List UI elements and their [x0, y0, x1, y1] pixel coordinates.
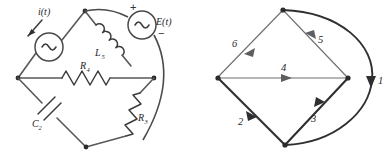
current-direction-arrow-icon — [28, 20, 42, 36]
wire-left-to-C2 — [18, 78, 42, 103]
graph-node-top — [280, 7, 285, 12]
circuit-diagram: L 5 + − E(t) R 4 — [16, 1, 173, 149]
graph-node-left — [215, 75, 220, 80]
graph-edge-4: 4 — [218, 62, 348, 82]
graph-edge-3: 3 — [285, 78, 348, 145]
graph-edge-6-label: 6 — [232, 38, 238, 49]
wire-source-to-top — [62, 11, 85, 40]
inductor-label-subscript: 5 — [102, 53, 106, 60]
wire-arc-top-to-voltage-source — [85, 9, 128, 17]
graph-edge-1-label: 1 — [378, 75, 383, 86]
resistor-R4 — [62, 71, 110, 85]
graph-edge-2: 2 — [218, 78, 285, 145]
wire-C2-to-bottom — [57, 118, 86, 147]
graph-edge-2-label: 2 — [238, 116, 244, 127]
resistor-R4-label-subscript: 4 — [87, 66, 91, 73]
graph-edge-3-label: 3 — [310, 113, 316, 124]
oriented-graph: 6 5 4 2 — [215, 7, 383, 147]
graph-edge-5: 5 — [283, 10, 348, 78]
capacitor-C2-label-subscript: 2 — [39, 124, 43, 131]
circuit-node-bottom — [84, 145, 89, 150]
wire-top-to-inductor — [85, 11, 96, 25]
graph-node-right — [345, 75, 350, 80]
graph-node-bottom — [282, 142, 287, 147]
figure-canvas: L 5 + − E(t) R 4 — [0, 0, 389, 159]
voltage-source-minus-sign: − — [158, 27, 164, 39]
figure-root: L 5 + − E(t) R 4 — [0, 0, 389, 159]
current-source-label: i(t) — [38, 6, 51, 18]
wire-left-to-source — [18, 53, 36, 78]
wire-inductor-to-right — [122, 55, 131, 66]
voltage-source-label: E(t) — [155, 16, 172, 28]
graph-edge-5-label: 5 — [318, 34, 323, 45]
capacitor-C2 — [38, 97, 61, 120]
wire-right-to-R3 — [140, 78, 154, 93]
graph-edge-6: 6 — [218, 10, 283, 77]
inductor-label-letter: L — [94, 47, 101, 58]
graph-edge-4-label: 4 — [281, 62, 287, 73]
voltage-source-plus-sign: + — [130, 1, 136, 13]
resistor-R4-label-letter: R — [79, 60, 86, 71]
resistor-R3-label-subscript: 3 — [144, 118, 149, 125]
resistor-R3-label-letter: R — [137, 112, 144, 123]
wire-R3-to-bottom — [86, 136, 126, 147]
